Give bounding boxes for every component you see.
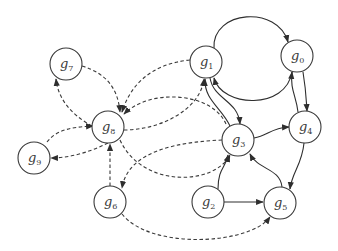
node-g9[interactable]: g9 — [18, 142, 50, 174]
node-g3[interactable]: g3 — [222, 124, 254, 156]
edge-g2-g3 — [218, 155, 228, 189]
edge-g1-g8 — [122, 60, 190, 112]
node-g1[interactable]: g1 — [190, 46, 222, 78]
node-g0[interactable]: g0 — [281, 40, 313, 72]
node-g2[interactable]: g2 — [192, 186, 224, 218]
edge-g3-g8 — [124, 97, 226, 124]
edge-g8-g3 — [120, 140, 230, 177]
edge-g3-g4 — [254, 127, 289, 138]
edge-g7-g8 — [82, 66, 120, 112]
edge-g4-g0 — [292, 72, 298, 112]
node-g6[interactable]: g6 — [94, 186, 126, 218]
node-g5[interactable]: g5 — [264, 187, 296, 219]
edge-g8-g1 — [124, 79, 204, 130]
edge-g8-g7 — [56, 79, 92, 126]
node-g7[interactable]: g7 — [50, 48, 82, 80]
node-g8[interactable]: g8 — [92, 111, 124, 143]
edge-g6-g5 — [122, 214, 270, 240]
edge-g5-g3 — [250, 154, 282, 187]
edge-g4-g5 — [290, 143, 304, 189]
graph-canvas: g0 g1 g2 g3 g4 g5 g6 g7 — [0, 0, 338, 251]
edge-g3-g6 — [122, 140, 222, 188]
edge-g1-g0 — [214, 17, 288, 48]
edge-g0-g4 — [303, 72, 307, 111]
edge-g8-g9 — [51, 143, 108, 158]
edge-g9-g8 — [47, 126, 93, 142]
edge-g0-g1 — [214, 72, 292, 101]
node-g4[interactable]: g4 — [289, 111, 321, 143]
